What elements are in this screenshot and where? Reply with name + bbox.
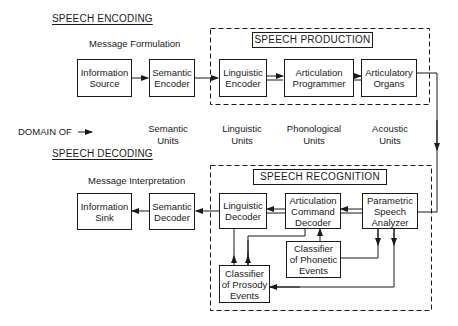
articulatory-organs-block: ArticulatoryOrgans xyxy=(361,59,417,97)
articulation-command-decoder-block: ArticulationCommandDecoder xyxy=(285,193,341,229)
speech-recognition-title: SPEECH RECOGNITION xyxy=(253,169,387,185)
linguistic-units-label: LinguisticUnits xyxy=(214,123,270,147)
parametric-speech-analyzer-block: ParametricSpeechAnalyzer xyxy=(362,193,418,229)
semantic-units-label: SemanticUnits xyxy=(140,123,196,147)
speech-encoding-heading: SPEECH ENCODING xyxy=(52,13,153,24)
domain-of-label: DOMAIN OF xyxy=(18,126,72,137)
semantic-decoder-block: SemanticDecoder xyxy=(149,193,195,230)
articulation-programmer-block: ArticulationProgrammer xyxy=(284,59,354,97)
message-interpretation-caption: Message Interpretation xyxy=(88,175,185,186)
acoustic-units-label: AcousticUnits xyxy=(362,123,418,147)
linguistic-encoder-block: LinguisticEncoder xyxy=(219,59,267,97)
classifier-prosody-events-block: Classifierof ProsodyEvents xyxy=(219,265,270,303)
message-formulation-caption: Message Formulation xyxy=(89,38,180,49)
linguistic-decoder-block: LinguisticDecoder xyxy=(219,193,267,229)
phonological-units-label: PhonologicalUnits xyxy=(281,123,347,147)
information-source-block: InformationSource xyxy=(77,59,132,97)
classifier-phonetic-events-block: Classifierof PhoneticEvents xyxy=(286,241,341,278)
semantic-encoder-block: SemanticEncoder xyxy=(149,59,195,97)
speech-production-title: SPEECH PRODUCTION xyxy=(252,32,373,48)
speech-decoding-heading: SPEECH DECODING xyxy=(52,148,153,159)
information-sink-block: InformationSink xyxy=(77,193,132,230)
